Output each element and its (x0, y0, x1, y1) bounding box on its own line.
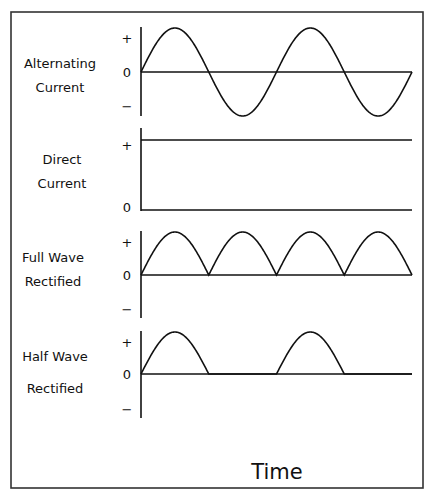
tick-minus: − (122, 302, 133, 317)
panel-title-line-2: Rectified (25, 274, 82, 289)
panel-title-line-2: Rectified (27, 381, 84, 396)
tick-plus: + (122, 235, 133, 250)
panel-full-wave-rectified: Full Wave Rectified + 0 − (22, 231, 412, 318)
panel-title-line-1: Full Wave (22, 250, 84, 265)
half-wave-rectified-curve (141, 332, 412, 374)
tick-minus: − (122, 99, 133, 114)
tick-plus: + (122, 335, 133, 350)
panel-title-line-1: Alternating (24, 56, 96, 71)
panel-half-wave-rectified: Half Wave Rectified + 0 − (22, 331, 412, 418)
panel-title-line-2: Current (38, 176, 87, 191)
tick-zero: 0 (123, 200, 131, 215)
full-wave-rectified-curve (141, 232, 412, 275)
tick-plus: + (122, 138, 133, 153)
panel-direct-current: Direct Current + 0 (38, 128, 412, 215)
tick-minus: − (122, 402, 133, 417)
tick-zero: 0 (123, 367, 131, 382)
tick-zero: 0 (123, 268, 131, 283)
x-axis-label: Time (250, 460, 302, 484)
panel-alternating-current: Alternating Current + 0 − (24, 27, 412, 116)
panel-title-line-1: Half Wave (22, 349, 88, 364)
panel-title-line-1: Direct (43, 152, 82, 167)
panel-title-line-2: Current (36, 80, 85, 95)
tick-zero: 0 (123, 65, 131, 80)
waveform-diagram: Alternating Current + 0 − Direct Current… (0, 0, 435, 501)
tick-plus: + (122, 31, 133, 46)
